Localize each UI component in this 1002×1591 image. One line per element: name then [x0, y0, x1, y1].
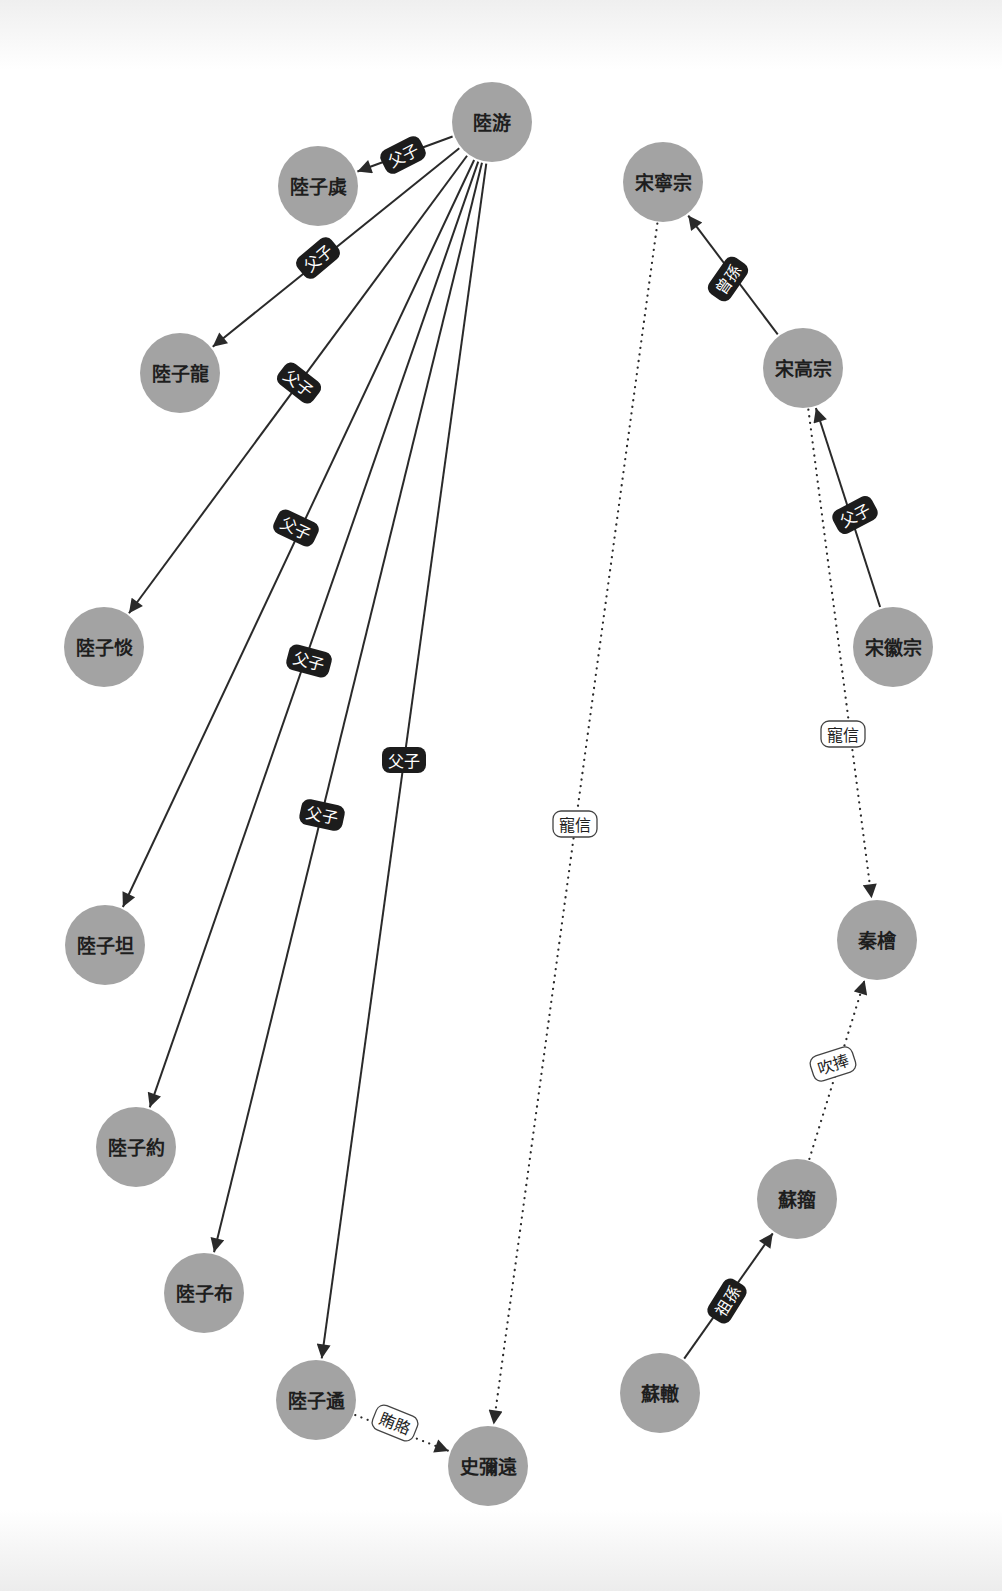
edge-label: 父子	[377, 133, 428, 176]
node-songhuizong[interactable]: 宋徽宗	[853, 607, 933, 687]
node-label: 陸子遹	[288, 1390, 345, 1412]
node-songningzong[interactable]: 宋寧宗	[623, 142, 703, 222]
node-label: 宋寧宗	[634, 172, 692, 194]
node-label: 陸子龍	[152, 363, 209, 385]
node-label: 宋徽宗	[864, 637, 922, 659]
edge-label: 父子	[293, 234, 343, 282]
node-luzitan1[interactable]: 陸子惔	[64, 607, 144, 687]
node-suzhe[interactable]: 蘇轍	[620, 1353, 700, 1433]
node-label: 宋高宗	[774, 358, 832, 380]
edge-label: 寵信	[821, 721, 865, 747]
nodes-layer: 陸游陸子虡陸子龍陸子惔陸子坦陸子約陸子布陸子遹史彌遠宋寧宗宋高宗宋徽宗秦檜蘇籀蘇…	[64, 82, 933, 1506]
node-luzilong[interactable]: 陸子龍	[140, 333, 220, 413]
node-shimiyuan[interactable]: 史彌遠	[448, 1426, 528, 1506]
node-label: 蘇籀	[777, 1189, 816, 1211]
edge-label: 父子	[382, 747, 426, 773]
relationship-graph: 父子父子父子父子父子父子父子曾孫父子祖孫寵信寵信吹捧賄賂 陸游陸子虡陸子龍陸子惔…	[0, 0, 1002, 1591]
edge-label: 賄賂	[370, 1403, 421, 1444]
node-label: 陸子布	[176, 1283, 233, 1305]
edge-label-text: 父子	[388, 752, 420, 771]
node-luzibu[interactable]: 陸子布	[164, 1253, 244, 1333]
node-label: 陸子坦	[77, 935, 134, 957]
node-label: 秦檜	[857, 930, 897, 952]
edge-label: 父子	[271, 507, 322, 549]
edge-label: 父子	[284, 643, 333, 680]
edge-label-text: 寵信	[559, 816, 591, 835]
node-luziyu[interactable]: 陸子遹	[276, 1360, 356, 1440]
node-label: 陸子惔	[76, 637, 134, 659]
edge-label: 寵信	[553, 811, 597, 837]
edge-label-text: 寵信	[827, 726, 859, 745]
node-luziyue[interactable]: 陸子約	[96, 1107, 176, 1187]
edge-luyou-to-luzibu	[214, 163, 482, 1252]
node-suzhou[interactable]: 蘇籀	[757, 1159, 837, 1239]
edge-labels-layer: 父子父子父子父子父子父子父子曾孫父子祖孫寵信寵信吹捧賄賂	[271, 133, 881, 1443]
edge-label: 吹捧	[808, 1045, 858, 1083]
node-luzitan2[interactable]: 陸子坦	[65, 905, 145, 985]
node-luziqu[interactable]: 陸子虡	[278, 146, 358, 226]
node-label: 陸子虡	[290, 176, 347, 198]
node-luyou[interactable]: 陸游	[452, 82, 532, 162]
edge-label: 曾孫	[705, 254, 752, 305]
edge-luyou-to-luziyue	[150, 162, 478, 1108]
edges-layer	[123, 136, 880, 1450]
node-label: 蘇轍	[640, 1383, 680, 1405]
node-label: 史彌遠	[460, 1456, 517, 1478]
node-qinhui[interactable]: 秦檜	[837, 900, 917, 980]
edge-label: 父子	[298, 798, 346, 833]
node-label: 陸游	[473, 112, 511, 134]
node-label: 陸子約	[108, 1137, 165, 1159]
edge-label: 父子	[274, 359, 325, 407]
node-songgaozong[interactable]: 宋高宗	[763, 328, 843, 408]
